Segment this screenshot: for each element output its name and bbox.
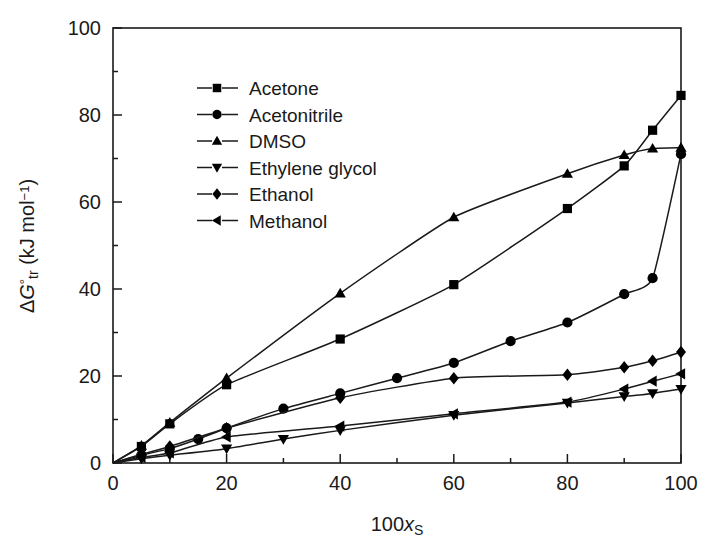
y-tick-label: 100 [68, 17, 101, 39]
y-tick-label: 40 [79, 278, 101, 300]
data-point-marker [336, 334, 345, 343]
data-point-marker [392, 373, 402, 383]
data-point-marker [449, 358, 459, 368]
y-tick-label: 80 [79, 104, 101, 126]
x-tick-label: 60 [443, 472, 465, 494]
x-tick-label: 20 [215, 472, 237, 494]
y-tick-label: 0 [90, 452, 101, 474]
transfer-free-energy-chart: 020406080100 020406080100 AcetoneAcetoni… [0, 0, 725, 555]
legend-label: Acetone [249, 78, 319, 99]
x-tick-label: 100 [664, 472, 697, 494]
legend-marker [212, 110, 221, 119]
data-point-marker [648, 126, 657, 135]
y-tick-label: 60 [79, 191, 101, 213]
figure-container: 020406080100 020406080100 AcetoneAcetoni… [0, 0, 725, 555]
data-point-marker [449, 280, 458, 289]
x-tick-label: 40 [329, 472, 351, 494]
legend-marker [213, 84, 221, 92]
x-tick-label: 80 [556, 472, 578, 494]
data-point-marker [619, 289, 629, 299]
data-point-marker [648, 273, 658, 283]
data-point-marker [562, 317, 572, 327]
legend-label: Ethanol [249, 184, 313, 205]
legend-label: DMSO [249, 131, 306, 152]
y-tick-label: 20 [79, 365, 101, 387]
data-point-marker [563, 204, 572, 213]
legend-label: Methanol [249, 211, 327, 232]
data-point-marker [506, 336, 516, 346]
legend-label: Acetonitrile [249, 105, 343, 126]
x-tick-label: 0 [107, 472, 118, 494]
data-point-marker [620, 161, 629, 170]
legend-label: Ethylene glycol [249, 158, 377, 179]
data-point-marker [676, 91, 685, 100]
